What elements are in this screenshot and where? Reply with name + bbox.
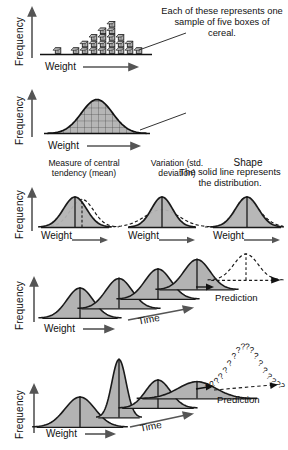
y-axis-arrow — [28, 91, 35, 137]
x-axis-label-weight: Weight — [48, 140, 79, 151]
histogram-blocks — [53, 22, 142, 54]
x-axis-arrow — [83, 326, 113, 333]
heading-shape: Shape — [220, 158, 276, 168]
y-axis-arrow — [30, 278, 37, 322]
x-axis-arrow — [83, 64, 137, 71]
panel-three-properties: Frequency Measure of central tendency (m… — [0, 155, 288, 250]
prediction-label: Prediction — [215, 292, 258, 303]
x-axis-label-weight: Weight — [46, 428, 77, 439]
y-axis-arrow — [28, 189, 35, 231]
y-axis-arrow — [28, 8, 35, 58]
x-axis-label-weight-1: Weight — [41, 230, 72, 241]
unstable-curves — [32, 359, 278, 428]
x-axis-label-weight-3: Weight — [213, 230, 244, 241]
panel-histogram-blocks: Frequency Weight Each of these represent… — [0, 0, 288, 75]
prediction-label: Prediction — [217, 394, 260, 405]
y-axis-label-frequency: Frequency — [14, 390, 25, 439]
caption-leader-line-2 — [140, 113, 186, 130]
stable-curves — [38, 253, 284, 318]
distribution-fill — [47, 100, 146, 134]
heading-variation: Variation (std. deviation) — [140, 158, 214, 178]
y-axis-label-frequency: Frequency — [14, 281, 25, 330]
x-axis-arrow — [85, 431, 114, 438]
subpanel-variation — [108, 196, 217, 243]
x-axis-label-weight: Weight — [44, 323, 75, 334]
y-axis-label-frequency: Frequency — [14, 17, 25, 66]
panel-distribution-curve: Frequency Weight The solid line represen… — [0, 75, 288, 155]
panel-stable-process: Frequency Weight Time Prediction — [0, 250, 288, 335]
question-marks-arch: ?????????????????? — [203, 341, 288, 391]
distribution-curve-figure — [0, 75, 288, 155]
x-axis-label-weight-2: Weight — [128, 230, 159, 241]
x-axis-label-weight: Weight — [45, 61, 76, 72]
caption-sample-of-five-boxes: Each of these represents one sample of f… — [160, 6, 284, 40]
y-axis-label-frequency: Frequency — [14, 96, 25, 145]
heading-central-tendency: Measure of central tendency (mean) — [36, 158, 132, 178]
x-axis-arrow — [87, 143, 139, 150]
y-axis-label-frequency: Frequency — [14, 190, 25, 239]
panel-unstable-process: Frequency ?????????????????? Weight Time… — [0, 335, 288, 450]
